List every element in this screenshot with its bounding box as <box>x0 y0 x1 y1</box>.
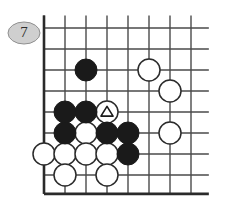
white-stone[interactable] <box>33 143 55 165</box>
black-stone[interactable] <box>117 143 139 165</box>
stone-disc <box>54 122 76 144</box>
stone-disc <box>159 80 181 102</box>
stone-disc <box>138 59 160 81</box>
stone-disc <box>75 59 97 81</box>
stone-disc <box>75 101 97 123</box>
stone-disc <box>75 122 97 144</box>
white-stone[interactable] <box>96 101 118 123</box>
stone-disc <box>33 143 55 165</box>
stone-disc <box>96 143 118 165</box>
move-number-badge: 7 <box>7 21 41 45</box>
white-stone[interactable] <box>75 143 97 165</box>
black-stone[interactable] <box>75 59 97 81</box>
stone-disc <box>75 143 97 165</box>
white-stone[interactable] <box>159 80 181 102</box>
stone-disc <box>96 101 118 123</box>
white-stone[interactable] <box>54 164 76 186</box>
stone-disc <box>96 164 118 186</box>
go-diagram: 7 <box>0 0 231 208</box>
stone-disc <box>54 143 76 165</box>
stone-disc <box>54 164 76 186</box>
black-stone[interactable] <box>117 122 139 144</box>
white-stone[interactable] <box>159 122 181 144</box>
stone-disc <box>96 122 118 144</box>
black-stone[interactable] <box>96 122 118 144</box>
black-stone[interactable] <box>54 122 76 144</box>
stone-disc <box>117 122 139 144</box>
stone-disc <box>117 143 139 165</box>
white-stone[interactable] <box>138 59 160 81</box>
move-number-text: 7 <box>20 25 28 41</box>
white-stone[interactable] <box>96 143 118 165</box>
white-stone[interactable] <box>96 164 118 186</box>
stone-disc <box>159 122 181 144</box>
white-stone[interactable] <box>54 143 76 165</box>
black-stone[interactable] <box>54 101 76 123</box>
black-stone[interactable] <box>75 101 97 123</box>
white-stone[interactable] <box>75 122 97 144</box>
stone-disc <box>54 101 76 123</box>
